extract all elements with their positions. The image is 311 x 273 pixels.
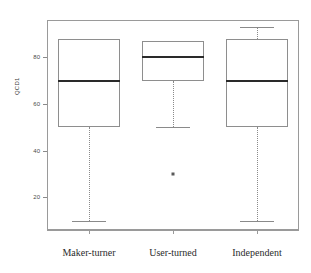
y-tick-label: 40 — [24, 148, 40, 154]
x-tick-label-independent: Independent — [232, 247, 281, 258]
box-user-turned — [142, 41, 204, 81]
boxplot-figure: QCD1 20406080 Maker-turnerUser-turnedInd… — [0, 0, 311, 273]
whisker-lower — [257, 127, 259, 220]
whisker-upper — [257, 27, 259, 39]
y-tick-label: 60 — [24, 101, 40, 107]
outlier-point — [172, 173, 175, 176]
box-maker-turner — [58, 39, 120, 128]
y-tick-label: 20 — [24, 194, 40, 200]
whisker-lower — [173, 81, 175, 128]
median-line — [58, 80, 120, 82]
x-tick-label-maker-turner: Maker-turner — [62, 247, 115, 258]
x-tick-mark — [257, 230, 258, 234]
whisker-cap-upper — [240, 27, 274, 28]
whisker-lower — [89, 127, 91, 220]
y-tick-mark — [43, 197, 47, 198]
whisker-cap-lower — [156, 127, 190, 128]
y-tick-label: 80 — [24, 54, 40, 60]
whisker-cap-lower — [72, 221, 106, 222]
y-tick-mark — [43, 104, 47, 105]
y-axis-label: QCD1 — [14, 35, 20, 95]
box-independent — [226, 39, 288, 128]
y-tick-mark — [43, 151, 47, 152]
x-tick-label-user-turned: User-turned — [149, 247, 197, 258]
x-tick-mark — [173, 230, 174, 234]
median-line — [142, 56, 204, 58]
y-tick-mark — [43, 57, 47, 58]
whisker-cap-lower — [240, 221, 274, 222]
median-line — [226, 80, 288, 82]
x-tick-mark — [89, 230, 90, 234]
